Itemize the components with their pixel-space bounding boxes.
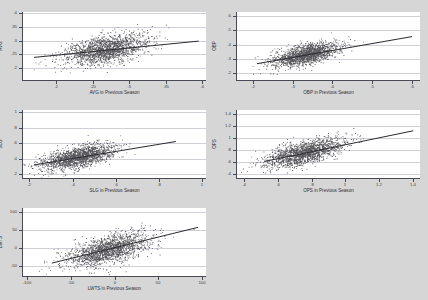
- x-ticklabel-slg-2: .6: [107, 182, 125, 187]
- panel-lwts: -50050100-100-50050100LWTS in Previous S…: [0, 0, 428, 300]
- y-tick-lwts-0: [19, 266, 22, 267]
- y-ticklabel-slg-0: .2: [1, 171, 17, 176]
- y-ticklabel-obp-4: .6: [215, 13, 231, 18]
- y-tick-slg-0: [19, 174, 22, 175]
- gridline-slg-0: [23, 174, 206, 175]
- y-tick-obp-3: [233, 30, 236, 31]
- panel-ops: .4.6.811.21.4.4.6.811.21.4OPS in Previou…: [0, 0, 428, 300]
- x-tick-slg-0: [29, 179, 30, 182]
- x-tick-obp-3: [372, 81, 373, 84]
- gridline-obp-3: [237, 30, 420, 31]
- y-tick-obp-2: [233, 45, 236, 46]
- y-ticklabel-avg-2: .3: [1, 38, 17, 43]
- y-ticklabel-ops-1: .6: [215, 159, 231, 164]
- y-tick-obp-0: [233, 73, 236, 74]
- gridline-lwts-3: [23, 212, 206, 213]
- gridline-avg-4: [23, 13, 206, 14]
- y-ticklabel-ops-4: 1.2: [215, 123, 231, 128]
- x-ticklabel-obp-3: .5: [363, 84, 381, 89]
- y-tick-ops-0: [233, 174, 236, 175]
- plot-area-obp: [237, 12, 420, 80]
- x-ticklabel-avg-3: .35: [157, 84, 175, 89]
- x-ticklabel-slg-4: 1: [193, 182, 211, 187]
- x-axis-title-slg: SLG in Previous Season: [23, 188, 206, 194]
- x-ticklabel-ops-0: .4: [235, 182, 253, 187]
- plot-area-slg: [23, 110, 206, 178]
- y-ticklabel-avg-0: .2: [1, 65, 17, 70]
- x-tick-lwts-1: [71, 277, 72, 280]
- x-tick-avg-4: [202, 81, 203, 84]
- x-tick-ops-1: [278, 179, 279, 182]
- x-ticklabel-ops-5: 1.4: [404, 182, 422, 187]
- gridline-slg-4: [23, 112, 206, 113]
- y-tick-lwts-3: [19, 212, 22, 213]
- scatter-points-avg: [0, 0, 428, 300]
- y-tick-avg-0: [19, 68, 22, 69]
- gridline-lwts-0: [23, 266, 206, 267]
- x-axis-lwts: [22, 276, 206, 277]
- panel-obp: .2.3.4.5.6.2.3.4.5.6OBP in Previous Seas…: [0, 0, 428, 300]
- y-tick-avg-1: [19, 54, 22, 55]
- y-tick-lwts-2: [19, 230, 22, 231]
- scatter-points-slg: [0, 0, 428, 300]
- y-axis-slg: [22, 110, 23, 179]
- x-ticklabel-slg-0: .2: [20, 182, 38, 187]
- y-ticklabel-avg-1: .25: [1, 51, 17, 56]
- gridline-ops-4: [237, 126, 420, 127]
- gridline-avg-2: [23, 41, 206, 42]
- x-axis-title-obp: OBP in Previous Season: [237, 90, 420, 96]
- x-tick-avg-0: [56, 81, 57, 84]
- y-axis-title-avg: AVG: [0, 26, 4, 66]
- y-ticklabel-obp-1: .3: [215, 56, 231, 61]
- x-tick-obp-4: [412, 81, 413, 84]
- x-tick-ops-3: [345, 179, 346, 182]
- y-tick-obp-4: [233, 16, 236, 17]
- y-ticklabel-slg-4: 1: [1, 109, 17, 114]
- y-ticklabel-lwts-0: -50: [1, 263, 17, 268]
- x-tick-avg-3: [166, 81, 167, 84]
- gridline-ops-1: [237, 162, 420, 163]
- x-ticklabel-ops-4: 1.2: [370, 182, 388, 187]
- x-ticklabel-ops-1: .6: [269, 182, 287, 187]
- x-ticklabel-lwts-1: -50: [62, 280, 80, 285]
- y-axis-lwts: [22, 208, 23, 277]
- scatter-points-lwts: [0, 0, 428, 300]
- x-tick-avg-1: [93, 81, 94, 84]
- x-tick-lwts-0: [27, 277, 28, 280]
- x-tick-obp-1: [293, 81, 294, 84]
- x-tick-slg-4: [202, 179, 203, 182]
- x-ticklabel-obp-2: .4: [323, 84, 341, 89]
- y-axis-ops: [236, 110, 237, 179]
- gridline-avg-3: [23, 27, 206, 28]
- y-axis-title-ops: OPS: [212, 124, 218, 164]
- x-tick-slg-3: [159, 179, 160, 182]
- y-ticklabel-avg-3: .35: [1, 24, 17, 29]
- gridline-slg-1: [23, 159, 206, 160]
- x-axis-title-lwts: LWTS in Previous Season: [23, 286, 206, 292]
- gridline-avg-1: [23, 54, 206, 55]
- x-tick-lwts-4: [202, 277, 203, 280]
- x-tick-avg-2: [129, 81, 130, 84]
- gridline-obp-4: [237, 16, 420, 17]
- fit-line-slg: [34, 142, 176, 166]
- y-tick-ops-5: [233, 114, 236, 115]
- gridline-lwts-1: [23, 248, 206, 249]
- y-ticklabel-obp-0: .2: [215, 70, 231, 75]
- y-ticklabel-slg-1: .4: [1, 156, 17, 161]
- x-axis-obp: [236, 80, 420, 81]
- x-ticklabel-avg-4: .4: [193, 84, 211, 89]
- y-tick-avg-4: [19, 13, 22, 14]
- y-tick-slg-1: [19, 159, 22, 160]
- y-ticklabel-ops-3: 1: [215, 135, 231, 140]
- y-tick-avg-2: [19, 41, 22, 42]
- x-ticklabel-avg-0: .2: [47, 84, 65, 89]
- y-tick-ops-3: [233, 138, 236, 139]
- y-tick-slg-4: [19, 112, 22, 113]
- x-axis-avg: [22, 80, 206, 81]
- x-tick-lwts-3: [158, 277, 159, 280]
- gridline-obp-1: [237, 59, 420, 60]
- y-tick-ops-1: [233, 162, 236, 163]
- x-ticklabel-lwts-3: 50: [149, 280, 167, 285]
- y-tick-obp-1: [233, 59, 236, 60]
- plot-area-lwts: [23, 208, 206, 276]
